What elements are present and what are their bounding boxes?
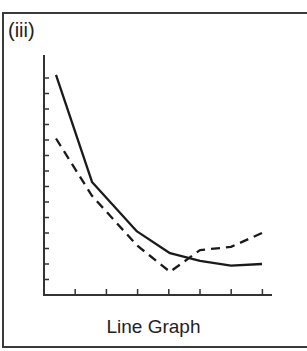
line-chart	[0, 0, 307, 351]
series-solid-line	[56, 75, 262, 266]
series-dashed-line	[56, 139, 262, 272]
series-lines	[56, 75, 262, 272]
chart-caption: Line Graph	[0, 316, 307, 338]
axes	[43, 55, 272, 295]
